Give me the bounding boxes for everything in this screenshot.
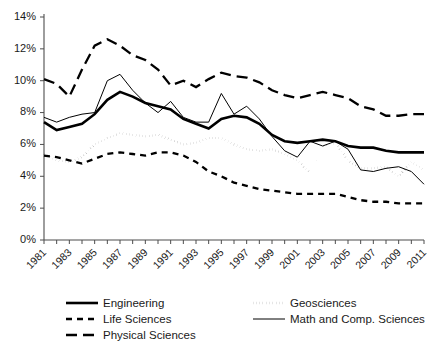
y-tick-label: 8% bbox=[20, 105, 36, 117]
y-tick-label: 14% bbox=[14, 10, 36, 22]
legend-label[interactable]: Life Sciences bbox=[103, 313, 172, 325]
y-tick-label: 0% bbox=[20, 233, 36, 245]
legend-label[interactable]: Engineering bbox=[103, 297, 164, 309]
line-chart: 0%2%4%6%8%10%12%14% 19811983198519871989… bbox=[0, 0, 435, 347]
chart-background bbox=[0, 0, 435, 347]
y-tick-label: 12% bbox=[14, 42, 36, 54]
legend-label[interactable]: Physical Sciences bbox=[103, 329, 196, 341]
legend-label[interactable]: Geosciences bbox=[290, 297, 357, 309]
y-tick-label: 4% bbox=[20, 169, 36, 181]
y-tick-label: 10% bbox=[14, 74, 36, 86]
y-tick-label: 2% bbox=[20, 201, 36, 213]
y-tick-label: 6% bbox=[20, 137, 36, 149]
legend-label[interactable]: Math and Comp. Sciences bbox=[290, 313, 425, 325]
chart-figure: 0%2%4%6%8%10%12%14% 19811983198519871989… bbox=[0, 0, 435, 347]
